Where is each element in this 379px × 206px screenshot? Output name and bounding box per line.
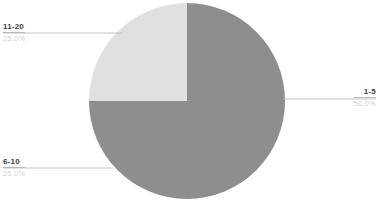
pie-label-11-20-rule (3, 32, 25, 33)
pie-label-1-5: 1-5 50.0% (354, 87, 376, 108)
pie-slice-6-10[interactable] (89, 101, 187, 199)
pie-slice-11-20[interactable] (89, 3, 187, 101)
pie-label-6-10-percent: 25.0% (3, 169, 25, 178)
pie-label-11-20-title: 11-20 (3, 22, 25, 31)
pie-label-6-10-rule (3, 167, 25, 168)
pie-slice-1-5[interactable] (187, 3, 285, 199)
pie-chart-canvas (0, 0, 379, 206)
pie-label-1-5-rule (354, 97, 376, 98)
pie-label-11-20-percent: 25.0% (3, 34, 25, 43)
pie-label-6-10: 6-10 25.0% (3, 157, 25, 178)
pie-label-1-5-title: 1-5 (354, 87, 376, 96)
pie-label-1-5-percent: 50.0% (354, 99, 376, 108)
pie-label-6-10-title: 6-10 (3, 157, 25, 166)
pie-chart-figure: 11-20 25.0% 6-10 25.0% 1-5 50.0% (0, 0, 379, 206)
pie-label-11-20: 11-20 25.0% (3, 22, 25, 43)
